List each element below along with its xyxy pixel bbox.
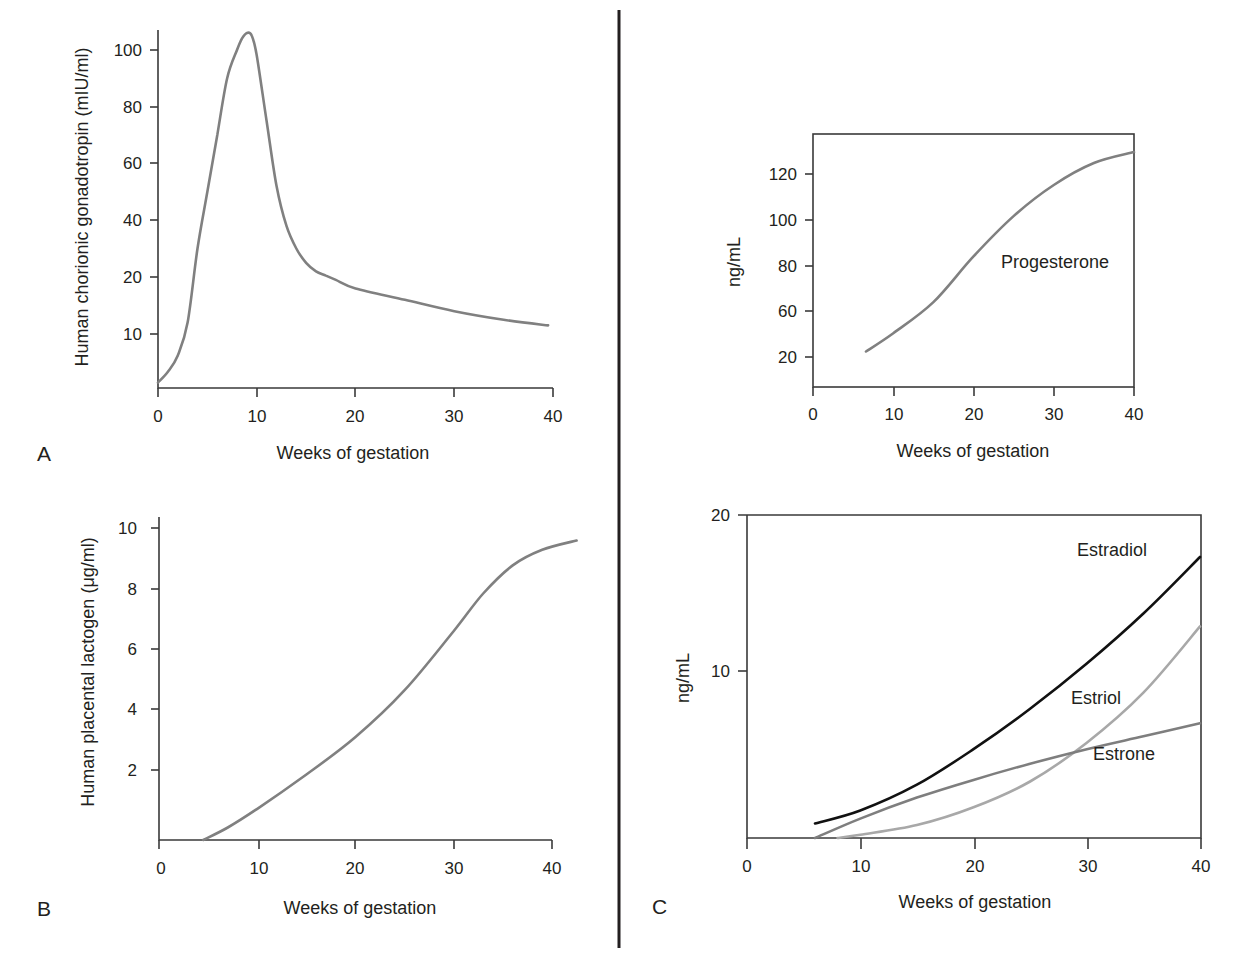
progesterone-xtick: 40 [1125,405,1144,424]
hpl-x-ticks [159,840,552,849]
estrogens-x-ticks [747,838,1201,849]
hpl-ytick: 4 [128,700,137,719]
hpl-xtick: 0 [156,859,165,878]
estrogens-ytick: 10 [711,662,730,681]
estradiol-curve [815,557,1200,824]
progesterone-xtick: 30 [1045,405,1064,424]
estrogens-xtick: 30 [1079,857,1098,876]
hpl-xtick: 30 [445,859,464,878]
progesterone-ytick: 80 [778,257,797,276]
hpl-xtick: 40 [543,859,562,878]
estrone-series-label: Estrone [1093,744,1155,764]
hpl-x-axis-label: Weeks of gestation [284,898,437,918]
hpl-y-ticks [151,528,159,770]
progesterone-ytick: 60 [778,302,797,321]
hcg-axes [158,30,553,388]
progesterone-xtick: 20 [965,405,984,424]
progesterone-xtick: 0 [808,405,817,424]
hpl-xtick: 10 [250,859,269,878]
hcg-curve [158,33,548,383]
progesterone-y-ticks [805,174,813,357]
chart-progesterone: 120 100 80 60 20 0 10 20 30 40 Weeks of … [724,134,1143,461]
chart-estrogens: 10 20 0 10 20 30 40 Weeks of gestation n… [652,506,1210,918]
estrogens-xtick: 40 [1192,857,1211,876]
estrogens-y-axis-label: ng/mL [673,653,693,703]
hcg-ytick: 40 [123,211,142,230]
estrogens-xtick: 20 [966,857,985,876]
progesterone-xtick: 10 [885,405,904,424]
progesterone-y-axis-label: ng/mL [724,237,744,287]
estrogens-frame [738,515,1201,838]
estrogens-xtick: 10 [852,857,871,876]
panel-label-c: C [652,895,667,918]
hpl-y-axis-label: Human placental lactogen (μg/ml) [78,537,98,807]
hpl-xtick: 20 [346,859,365,878]
hcg-ytick: 10 [123,325,142,344]
hcg-y-axis-label: Human chorionic gonadotropin (mIU/ml) [72,47,92,366]
hcg-ytick: 60 [123,154,142,173]
hpl-ytick: 8 [128,580,137,599]
hcg-xtick: 30 [445,407,464,426]
hpl-curve [203,541,576,841]
hcg-x-ticks [158,388,553,397]
estrogens-ytick: 20 [711,506,730,525]
estrogens-xtick: 0 [742,857,751,876]
chart-hpl: 10 8 6 4 2 0 10 20 30 40 Weeks of gestat… [37,517,577,920]
hcg-xtick: 10 [248,407,267,426]
hcg-x-axis-label: Weeks of gestation [277,443,430,463]
progesterone-ytick: 100 [769,211,797,230]
hpl-ytick: 2 [128,761,137,780]
hcg-xtick: 0 [153,407,162,426]
progesterone-ytick: 20 [778,348,797,367]
hpl-axes [159,517,552,840]
estrone-curve [815,723,1200,838]
hcg-y-ticks [150,50,158,334]
hcg-xtick: 20 [346,407,365,426]
progesterone-ytick: 120 [769,165,797,184]
hcg-ytick: 20 [123,268,142,287]
chart-hcg: 100 80 60 40 20 10 0 10 20 30 40 Weeks o… [37,30,562,465]
hpl-ytick: 6 [128,640,137,659]
estriol-series-label: Estriol [1071,688,1121,708]
progesterone-x-ticks [813,387,1134,396]
progesterone-series-label: Progesterone [1001,252,1109,272]
hcg-ytick: 80 [123,98,142,117]
estrogens-x-axis-label: Weeks of gestation [899,892,1052,912]
panel-label-b: B [37,897,51,920]
estradiol-series-label: Estradiol [1077,540,1147,560]
hcg-ytick: 100 [114,41,142,60]
hcg-xtick: 40 [544,407,563,426]
hpl-ytick: 10 [118,519,137,538]
progesterone-x-axis-label: Weeks of gestation [897,441,1050,461]
figure-canvas: 100 80 60 40 20 10 0 10 20 30 40 Weeks o… [0,0,1236,965]
panel-label-a: A [37,442,51,465]
